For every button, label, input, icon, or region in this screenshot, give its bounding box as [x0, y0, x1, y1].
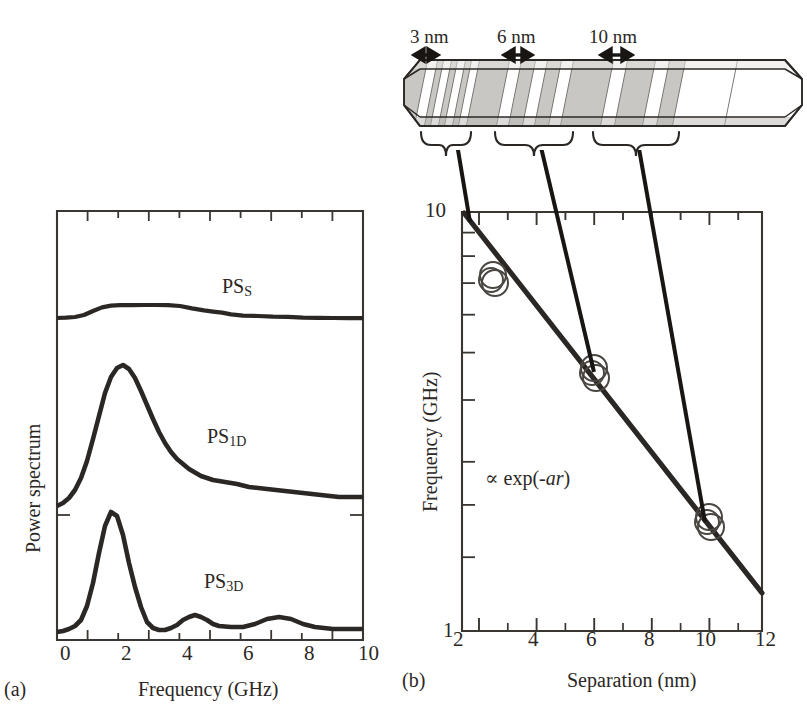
panel-a-xtick-8: 8 — [304, 641, 315, 666]
panel-b-label: (b) — [402, 669, 425, 692]
panel-b-ylabel: Frequency (GHz) — [419, 372, 442, 513]
panel-b-xtick-10: 10 — [695, 627, 716, 652]
panel-b-top-ticks — [479, 212, 738, 225]
panel-b-xtick-6: 6 — [586, 627, 597, 652]
panel-a-plot — [0, 195, 400, 665]
panel-b-fit-annotation: ∝ exp(-ar) — [485, 466, 570, 490]
curve-label-ps-3d: PS3D — [204, 570, 243, 595]
curve-label-ps-s: PSS — [222, 275, 252, 300]
panel-b-xtick-12: 12 — [755, 627, 776, 652]
panel-a-xlabel: Frequency (GHz) — [138, 678, 279, 701]
data-point-cluster-3nm — [479, 262, 508, 296]
panel-a-y-ticks — [57, 318, 363, 515]
curve-ps-s — [57, 305, 363, 318]
panel-b-xtick-2: 2 — [453, 627, 464, 652]
nanowire-dimension-arrows — [400, 44, 700, 66]
data-point-cluster-6nm — [580, 355, 609, 391]
panel-a-bottom-ticks — [88, 630, 333, 640]
panel-b-axes-frame — [462, 212, 762, 631]
panel-a-xtick-2: 2 — [121, 641, 132, 666]
panel-a-xtick-10: 10 — [358, 641, 379, 666]
panel-a-xtick-0: 0 — [60, 641, 71, 666]
panel-a-xtick-6: 6 — [243, 641, 254, 666]
panel-b-ytick-1: 1 — [443, 618, 454, 643]
panel-a-ylabel: Power spectrum — [22, 424, 45, 553]
dimension-arrow-10nm — [601, 49, 632, 61]
panel-a-xtick-4: 4 — [182, 641, 193, 666]
panel-b-xtick-4: 4 — [528, 627, 539, 652]
callout-arrow-10nm — [631, 150, 705, 522]
panel-b-xlabel: Separation (nm) — [567, 669, 696, 692]
panel-b-plot — [400, 150, 807, 650]
dimension-arrow-3nm — [414, 49, 438, 61]
panel-a-top-ticks — [88, 211, 333, 221]
panel-a-label: (a) — [4, 678, 26, 701]
dimension-arrow-6nm — [504, 49, 532, 61]
panel-b-ytick-10: 10 — [425, 198, 446, 223]
figure-root: 0 2 4 6 8 10 Power spectrum Frequency (G… — [0, 0, 807, 727]
panel-b-xtick-8: 8 — [644, 627, 655, 652]
fit-line-exponential — [464, 213, 762, 593]
curve-label-ps-1d: PS1D — [207, 425, 246, 450]
panel-b-x-major-ticks — [479, 618, 762, 631]
panel-b-y-log-ticks — [462, 233, 475, 558]
